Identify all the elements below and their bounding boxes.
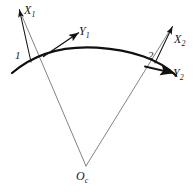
axis-x2-arrow <box>155 27 172 63</box>
diagram-canvas <box>0 0 194 194</box>
station-label-1: 1 <box>15 50 21 61</box>
curve-coordinate-diagram: X1 Y1 X2 Y2 1 2 Oc <box>0 0 194 194</box>
station-label-2: 2 <box>148 50 154 61</box>
axis-y1-arrow <box>44 33 79 57</box>
axis-label-x1-sub: 1 <box>32 10 36 19</box>
axis-label-x1-base: X <box>24 3 31 17</box>
axis-label-x2: X2 <box>174 33 185 45</box>
axis-label-y1: Y1 <box>79 25 90 37</box>
center-label-o-sub: c <box>85 176 89 185</box>
axis-label-x2-sub: 2 <box>182 39 186 48</box>
axis-label-y2: Y2 <box>173 67 184 79</box>
center-label-o: Oc <box>76 170 88 182</box>
radial-line-1-group <box>19 10 86 166</box>
axis-label-y1-base: Y <box>79 24 86 38</box>
station-label-1-base: 1 <box>15 49 21 61</box>
axis-label-y2-sub: 2 <box>180 73 184 82</box>
axis-label-y1-sub: 1 <box>86 31 90 40</box>
axis-label-x1: X1 <box>24 4 35 16</box>
axis-label-x2-base: X <box>174 32 181 46</box>
axis-x1-arrow <box>19 10 31 62</box>
center-label-o-base: O <box>76 169 85 183</box>
axis-label-y2-base: Y <box>173 66 180 80</box>
radial-line-1 <box>22 17 86 167</box>
station-label-2-base: 2 <box>148 49 154 61</box>
